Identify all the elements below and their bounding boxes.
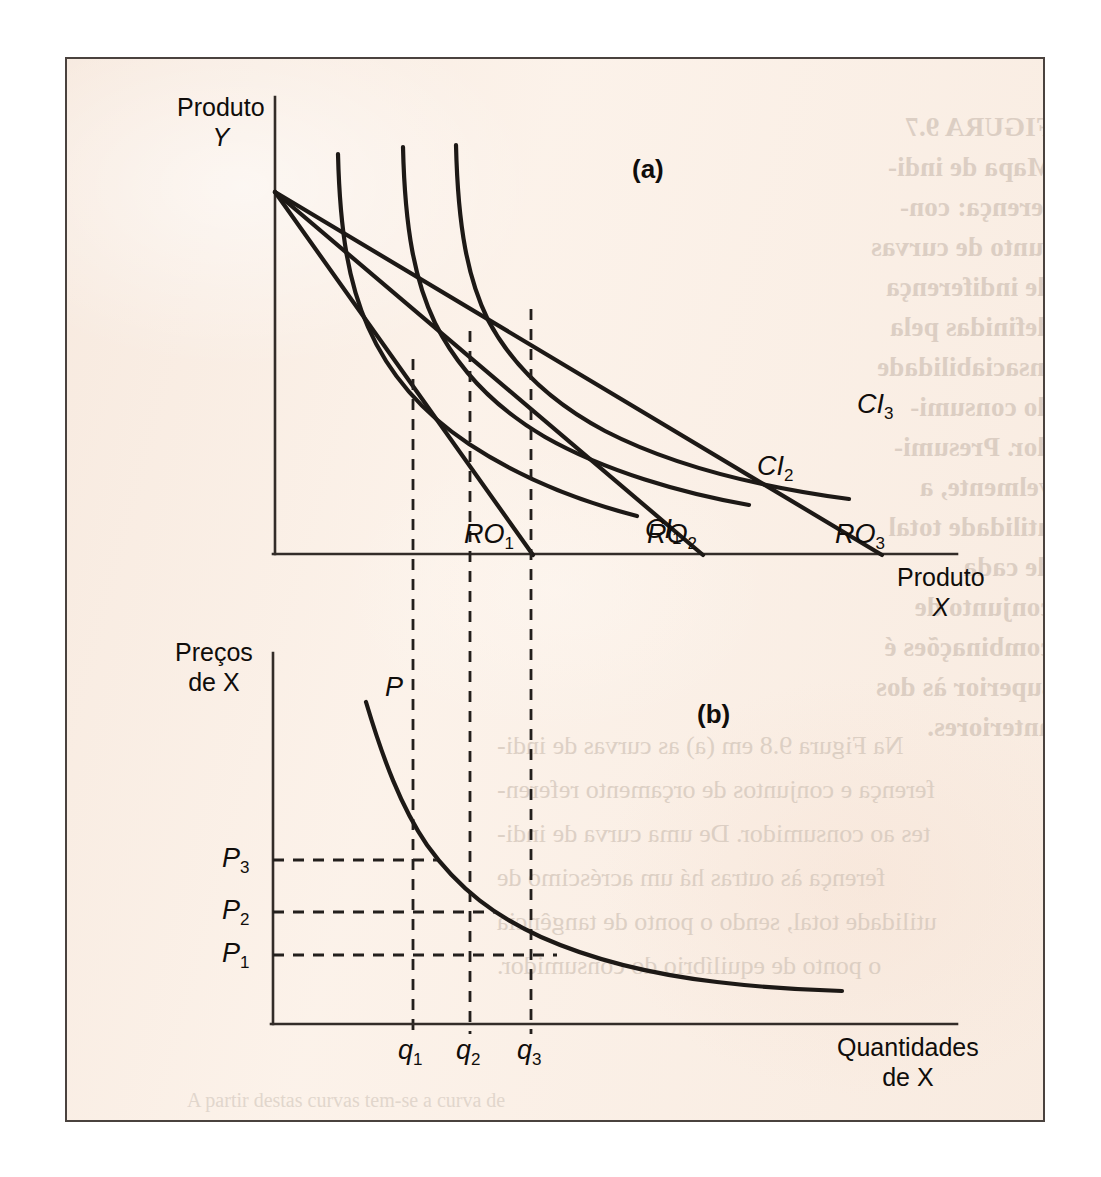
budget-line-ro3 — [275, 192, 882, 555]
price-guide-lines — [273, 860, 557, 955]
figure-frame: FIGURA 9.7Mapa de indi-ferença: con-junt… — [65, 57, 1045, 1122]
figure-drawing — [67, 59, 1045, 1122]
panel-a-budget-lines — [275, 192, 882, 555]
budget-line-ro1 — [275, 192, 533, 555]
demand-curve-p — [366, 702, 842, 991]
indifference-curve-ci2 — [403, 147, 749, 505]
panel-a-indifference-curves — [338, 145, 849, 516]
indifference-curve-ci3 — [456, 145, 849, 499]
budget-line-ro2 — [275, 192, 703, 555]
panel-b-axes — [271, 653, 957, 1024]
panel-a-axes — [273, 97, 957, 554]
